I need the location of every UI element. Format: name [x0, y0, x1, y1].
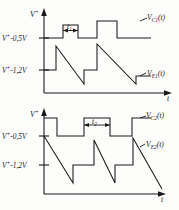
y-tick-label-bottom-2: V+-1,2V: [2, 160, 28, 170]
y-tick-label-top-1: V+-0,5V: [2, 33, 28, 43]
y-axis-label-top: V+: [30, 9, 39, 19]
curve-label-ve2: VE2(t): [146, 140, 164, 150]
y-axis-arrow-top: [41, 8, 47, 16]
chart-bottom: V+ V+-0,5V V+-1,2V t2 VC2(t) VE2(t) t: [0, 103, 179, 210]
waveform-ve1: [44, 44, 151, 84]
y-tick-label-bottom-1: V+-0,5V: [2, 131, 28, 141]
t2-arrow-right: [105, 123, 110, 127]
y-axis-arrow-bottom: [41, 108, 47, 116]
x-axis-label-bottom: t: [161, 195, 164, 204]
figure-root: V+ V+-0,5V V+-1,2V t1 VC1(t) VE1(t) t: [0, 0, 179, 210]
curve-label-ve1: VE1(t): [147, 69, 165, 79]
chart-top-svg: V+ V+-0,5V V+-1,2V t1 VC1(t) VE1(t) t: [0, 0, 179, 103]
curve-label-vc2: VC2(t): [146, 111, 165, 121]
chart-top: V+ V+-0,5V V+-1,2V t1 VC1(t) VE1(t) t: [0, 0, 179, 103]
curve-label-vc1: VC1(t): [147, 13, 166, 23]
waveform-vc2: [44, 118, 151, 136]
ve2-leader: [140, 144, 145, 147]
t2-arrow-left: [84, 123, 89, 127]
t1-arrow-right: [73, 28, 78, 32]
vc1-leader: [140, 18, 147, 21]
y-tick-label-top-2: V+-1,2V: [2, 65, 28, 75]
x-axis-label-top: t: [167, 94, 170, 103]
chart-bottom-svg: V+ V+-0,5V V+-1,2V t2 VC2(t) VE2(t) t: [0, 103, 179, 210]
waveform-vc1: [44, 21, 151, 38]
interval-label-t1: t1: [67, 22, 72, 32]
y-axis-label-bottom: V+: [30, 109, 39, 119]
